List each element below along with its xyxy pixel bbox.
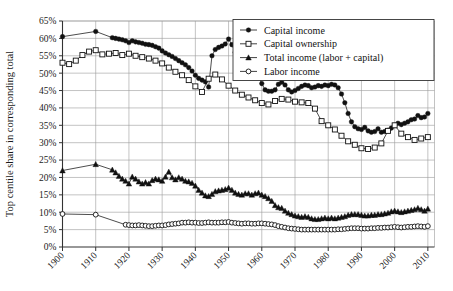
data-point: [246, 95, 251, 100]
data-point: [93, 29, 98, 34]
data-point: [140, 55, 145, 60]
data-point: [226, 83, 231, 88]
y-tick-label: 0%: [44, 242, 57, 252]
y-tick-label: 60%: [39, 34, 57, 44]
data-point: [93, 48, 98, 53]
data-point: [120, 53, 125, 58]
x-tick-label: 2000: [378, 250, 399, 271]
data-point: [343, 100, 348, 105]
data-point: [186, 78, 191, 83]
data-point: [60, 212, 65, 217]
data-point: [213, 72, 218, 77]
data-point: [87, 49, 92, 54]
data-point: [379, 141, 384, 146]
data-point: [346, 111, 351, 116]
y-tick-label: 55%: [39, 51, 57, 61]
data-point: [283, 83, 288, 88]
data-point: [352, 142, 357, 147]
data-point: [299, 100, 304, 105]
data-point: [259, 101, 264, 106]
y-tick-label: 10%: [39, 208, 57, 218]
data-point: [312, 106, 317, 111]
data-point: [426, 111, 431, 116]
data-point: [93, 212, 98, 217]
x-tick-label: 1950: [211, 250, 232, 271]
data-point: [306, 101, 311, 106]
data-point: [386, 128, 391, 133]
data-point: [219, 77, 224, 82]
data-point: [153, 58, 158, 63]
data-point: [336, 85, 341, 90]
y-tick-label: 30%: [39, 138, 57, 148]
data-point: [326, 123, 331, 128]
data-point: [100, 52, 105, 57]
data-point: [210, 53, 215, 58]
data-point: [266, 102, 271, 107]
y-tick-label: 65%: [39, 16, 57, 26]
data-point: [319, 119, 324, 124]
data-point: [422, 115, 427, 120]
data-point: [93, 161, 99, 166]
data-point: [293, 99, 298, 104]
data-point: [239, 92, 244, 97]
legend-label: Capital income: [264, 25, 325, 36]
data-point: [146, 56, 151, 61]
data-point: [206, 85, 211, 90]
data-point: [425, 206, 431, 211]
y-tick-label: 40%: [39, 103, 57, 113]
data-point: [163, 174, 169, 179]
y-tick-label: 25%: [39, 155, 57, 165]
data-point: [366, 146, 371, 151]
legend: Capital incomeCapital ownershipTotal inc…: [233, 20, 434, 81]
data-point: [113, 50, 118, 55]
y-axis-title: Top centile share in corresponding total: [4, 51, 15, 217]
x-tick-label: 1930: [145, 250, 166, 271]
data-point: [246, 69, 251, 74]
data-point: [425, 224, 430, 229]
data-point: [279, 96, 284, 101]
data-point: [133, 53, 138, 58]
data-point: [190, 69, 195, 74]
x-tick-label: 1900: [45, 250, 66, 271]
data-point: [412, 137, 417, 142]
x-tick-label: 1910: [79, 250, 100, 271]
data-point: [60, 34, 65, 39]
legend-label: Total income (labor + capital): [264, 52, 383, 64]
data-point: [186, 65, 191, 70]
x-tick-label: 1960: [245, 250, 266, 271]
data-point: [253, 98, 258, 103]
data-point: [339, 92, 344, 97]
data-point: [60, 60, 65, 65]
data-point: [246, 28, 251, 33]
x-tick-label: 1970: [278, 250, 299, 271]
data-point: [126, 51, 131, 56]
y-tick-label: 35%: [39, 121, 57, 131]
data-point: [200, 89, 205, 94]
data-point: [412, 117, 417, 122]
data-point: [399, 131, 404, 136]
data-point: [362, 125, 367, 130]
data-point: [223, 42, 228, 47]
y-tick-label: 5%: [44, 225, 57, 235]
data-point: [376, 126, 381, 131]
data-point: [405, 135, 410, 140]
legend-label: Labor income: [264, 66, 320, 77]
series-total-income-labor-capital: [60, 161, 431, 221]
y-tick-label: 50%: [39, 69, 57, 79]
data-point: [166, 169, 172, 174]
data-point: [259, 81, 264, 86]
data-point: [67, 62, 72, 67]
data-point: [332, 127, 337, 132]
data-point: [349, 120, 354, 125]
y-tick-label: 15%: [39, 190, 57, 200]
data-point: [425, 135, 430, 140]
data-point: [180, 73, 185, 78]
data-point: [392, 123, 397, 128]
data-point: [359, 146, 364, 151]
y-tick-label: 20%: [39, 173, 57, 183]
data-point: [372, 145, 377, 150]
data-point: [346, 139, 351, 144]
data-point: [273, 88, 278, 93]
data-point: [419, 136, 424, 141]
data-point: [273, 98, 278, 103]
